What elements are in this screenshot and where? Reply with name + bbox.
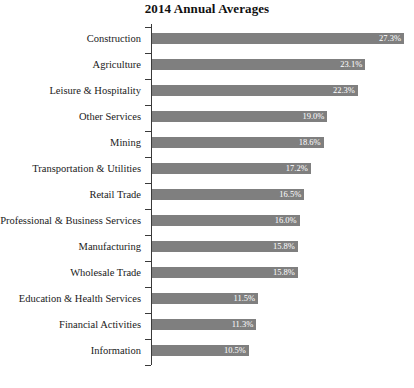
bar bbox=[152, 59, 365, 70]
bar-value-label: 18.6% bbox=[299, 137, 321, 148]
bar-value-label: 10.5% bbox=[224, 345, 246, 356]
bar-value-label: 23.1% bbox=[340, 59, 362, 70]
axis-tick bbox=[145, 365, 151, 366]
bar-value-label: 22.3% bbox=[333, 85, 355, 96]
category-label: Retail Trade bbox=[0, 182, 145, 208]
bar-container: 27.3% bbox=[152, 26, 404, 52]
bar bbox=[152, 85, 358, 96]
bar-value-label: 16.0% bbox=[275, 215, 297, 226]
bar-container: 16.0% bbox=[152, 208, 300, 234]
bar-container: 19.0% bbox=[152, 104, 327, 130]
bar-container: 16.5% bbox=[152, 182, 304, 208]
bar-row: Construction27.3% bbox=[0, 26, 414, 52]
bar-row: Transportation & Utilities17.2% bbox=[0, 156, 414, 182]
bar-value-label: 19.0% bbox=[302, 111, 324, 122]
bar bbox=[152, 33, 404, 44]
category-label: Financial Activities bbox=[0, 312, 145, 338]
category-label: Wholesale Trade bbox=[0, 260, 145, 286]
category-label: Information bbox=[0, 338, 145, 364]
category-label: Mining bbox=[0, 130, 145, 156]
bar-value-label: 17.2% bbox=[286, 163, 308, 174]
bar-container: 11.5% bbox=[152, 286, 258, 312]
chart-title: 2014 Annual Averages bbox=[0, 1, 414, 17]
bar-row: Wholesale Trade15.8% bbox=[0, 260, 414, 286]
bar-container: 15.8% bbox=[152, 260, 298, 286]
category-label: Agriculture bbox=[0, 52, 145, 78]
category-label: Other Services bbox=[0, 104, 145, 130]
category-label: Education & Health Services bbox=[0, 286, 145, 312]
bar-value-label: 15.8% bbox=[273, 241, 295, 252]
bar-row: Education & Health Services11.5% bbox=[0, 286, 414, 312]
category-label: Professional & Business Services bbox=[0, 208, 145, 234]
category-label: Construction bbox=[0, 26, 145, 52]
bar-row: Manufacturing15.8% bbox=[0, 234, 414, 260]
bar-container: 18.6% bbox=[152, 130, 324, 156]
bar-value-label: 27.3% bbox=[379, 33, 401, 44]
chart-page: 2014 Annual Averages Construction27.3%Ag… bbox=[0, 0, 414, 388]
category-label: Transportation & Utilities bbox=[0, 156, 145, 182]
bar-value-label: 11.5% bbox=[234, 293, 256, 304]
bar-container: 15.8% bbox=[152, 234, 298, 260]
category-label: Manufacturing bbox=[0, 234, 145, 260]
bar-container: 17.2% bbox=[152, 156, 311, 182]
plot-area: Construction27.3%Agriculture23.1%Leisure… bbox=[0, 24, 414, 380]
bar-container: 11.3% bbox=[152, 312, 256, 338]
bar-value-label: 11.3% bbox=[232, 319, 254, 330]
bar-row: Agriculture23.1% bbox=[0, 52, 414, 78]
bar-row: Professional & Business Services16.0% bbox=[0, 208, 414, 234]
bar-row: Retail Trade16.5% bbox=[0, 182, 414, 208]
bar-row: Information10.5% bbox=[0, 338, 414, 364]
bar-row: Leisure & Hospitality22.3% bbox=[0, 78, 414, 104]
bar-container: 22.3% bbox=[152, 78, 358, 104]
bar-value-label: 15.8% bbox=[273, 267, 295, 278]
bar bbox=[152, 111, 327, 122]
bar-value-label: 16.5% bbox=[279, 189, 301, 200]
bar-row: Financial Activities11.3% bbox=[0, 312, 414, 338]
bar-row: Mining18.6% bbox=[0, 130, 414, 156]
bar-row: Other Services19.0% bbox=[0, 104, 414, 130]
category-label: Leisure & Hospitality bbox=[0, 78, 145, 104]
bar-container: 10.5% bbox=[152, 338, 249, 364]
bar-container: 23.1% bbox=[152, 52, 365, 78]
